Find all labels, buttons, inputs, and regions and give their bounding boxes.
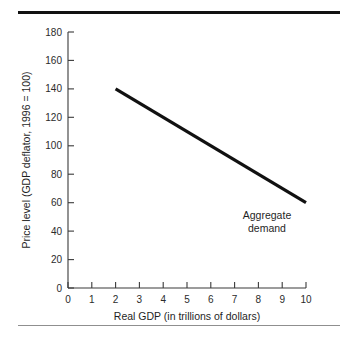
x-tick-label: 4 — [160, 294, 166, 305]
y-tick-label: 60 — [51, 197, 63, 208]
y-tick-label: 20 — [51, 254, 63, 265]
annotation-line-2: demand — [248, 222, 286, 234]
aggregate-demand-label: Aggregate demand — [243, 209, 292, 234]
y-tick-label: 120 — [45, 112, 62, 123]
x-tick-label: 7 — [232, 294, 238, 305]
x-tick-label: 2 — [113, 294, 119, 305]
x-tick-label: 0 — [65, 294, 71, 305]
x-tick-label: 8 — [256, 294, 262, 305]
plot-area-background — [68, 32, 306, 288]
x-tick-label: 3 — [137, 294, 143, 305]
x-tick-label: 1 — [89, 294, 95, 305]
y-tick-label: 160 — [45, 55, 62, 66]
x-tick-label: 6 — [208, 294, 214, 305]
annotation-line-1: Aggregate — [243, 209, 292, 221]
aggregate-demand-chart: 180 160 140 120 100 80 60 40 20 0 0 1 2 … — [0, 14, 356, 324]
x-tick-label: 9 — [279, 294, 285, 305]
y-tick-label: 180 — [45, 27, 62, 38]
y-tick-label: 140 — [45, 83, 62, 94]
x-axis-tick-labels: 0 1 2 3 4 5 6 7 8 9 10 — [65, 294, 312, 305]
x-tick-label: 10 — [300, 294, 312, 305]
y-axis-tick-labels: 180 160 140 120 100 80 60 40 20 0 — [45, 27, 62, 294]
bottom-decorative-rule — [18, 325, 340, 326]
y-tick-label: 40 — [51, 226, 63, 237]
x-axis-title: Real GDP (in trillions of dollars) — [114, 310, 260, 322]
y-axis-title: Price level (GDP deflator, 1996 = 100) — [20, 72, 32, 249]
x-tick-label: 5 — [184, 294, 190, 305]
y-tick-label: 0 — [56, 283, 62, 294]
chart-figure: 180 160 140 120 100 80 60 40 20 0 0 1 2 … — [0, 14, 356, 324]
y-tick-label: 80 — [51, 169, 63, 180]
y-tick-label: 100 — [45, 140, 62, 151]
